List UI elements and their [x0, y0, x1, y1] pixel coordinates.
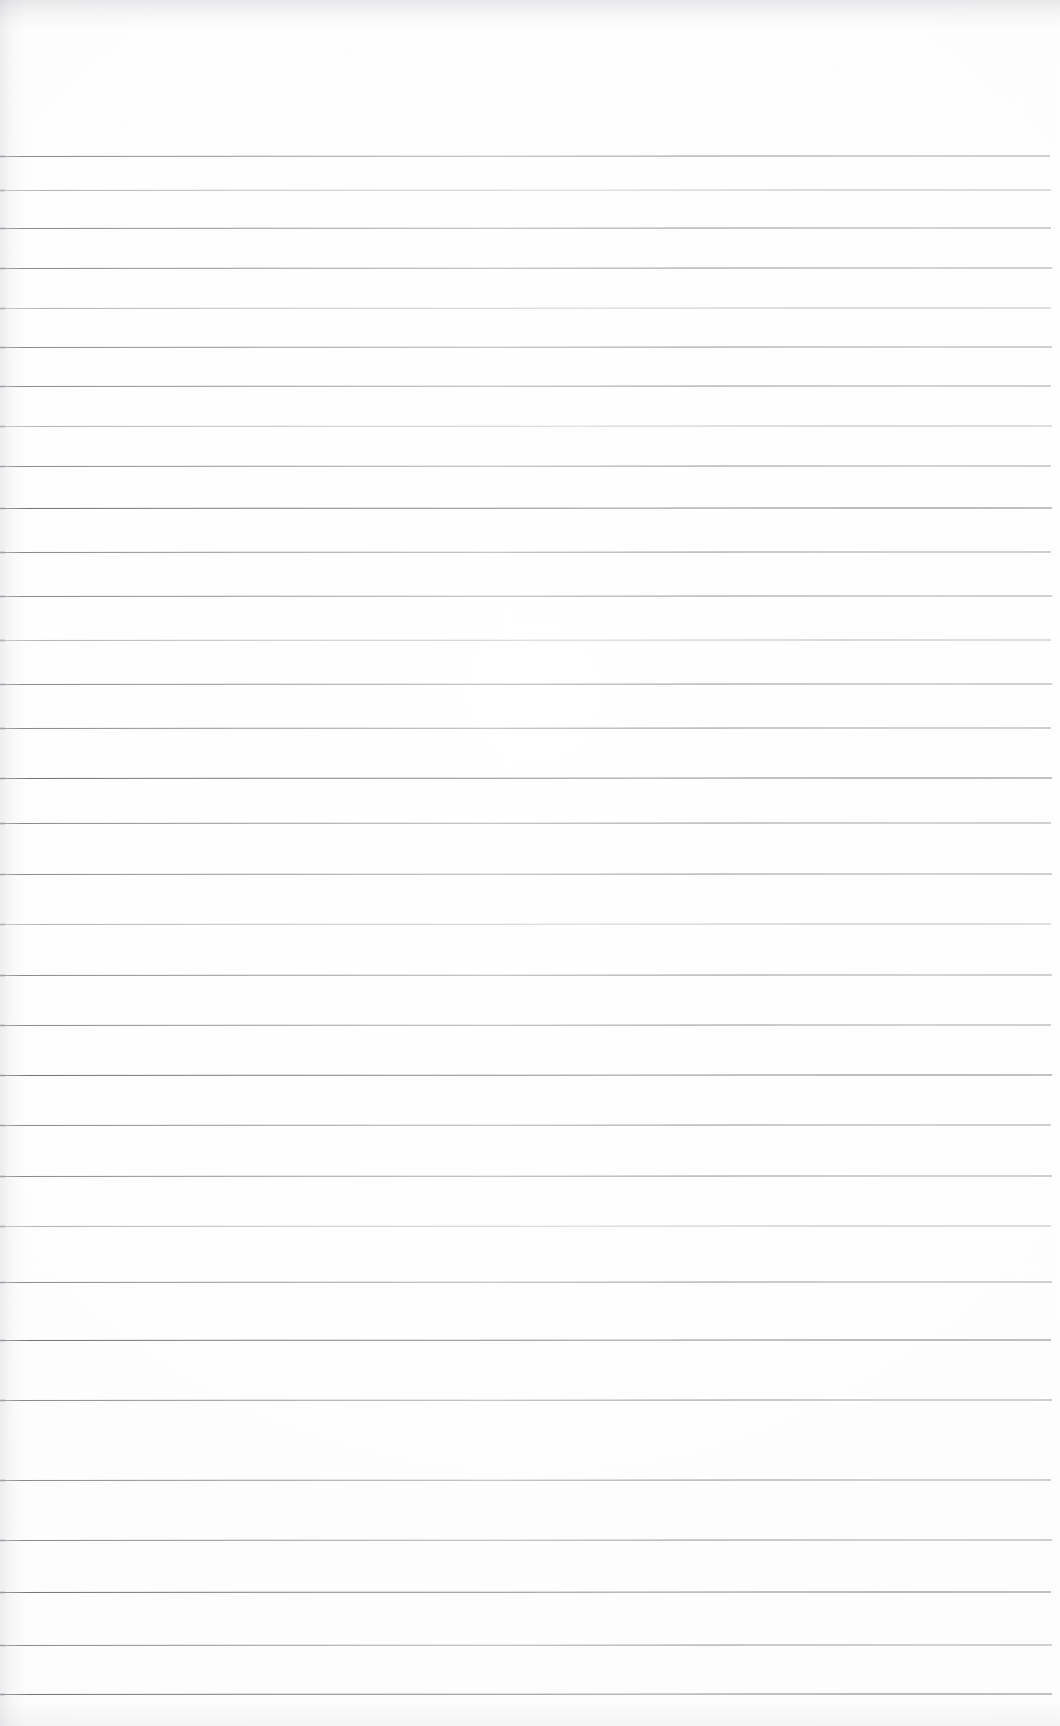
- rule-line: [0, 267, 1052, 269]
- rule-line: [0, 1281, 1052, 1283]
- rule-line: [0, 1124, 1051, 1126]
- rule-line: [0, 425, 1052, 427]
- scanned-page: [0, 0, 1060, 1726]
- rule-line: [0, 1399, 1052, 1401]
- rule-line: [0, 1339, 1051, 1341]
- rule-line: [0, 155, 1050, 157]
- rule-line: [0, 1225, 1051, 1227]
- rule-line: [0, 727, 1051, 729]
- rule-line: [0, 1024, 1051, 1026]
- rule-line: [0, 507, 1052, 509]
- rule-line: [0, 873, 1052, 875]
- rule-line: [0, 639, 1051, 641]
- rule-line: [0, 1591, 1051, 1593]
- rule-line: [0, 1693, 1052, 1695]
- rule-line: [0, 1539, 1052, 1541]
- rule-line: [0, 1074, 1052, 1076]
- rule-line: [0, 683, 1052, 685]
- rule-line: [0, 1479, 1051, 1481]
- rule-line: [0, 974, 1052, 976]
- rule-line: [0, 189, 1051, 191]
- rule-line: [0, 777, 1052, 779]
- rule-line: [0, 595, 1052, 597]
- ruled-lines-group: [0, 0, 1060, 1726]
- rule-line: [0, 385, 1051, 387]
- rule-line: [0, 346, 1052, 348]
- rule-line: [0, 822, 1051, 824]
- rule-line: [0, 551, 1051, 553]
- rule-line: [0, 923, 1051, 925]
- rule-line: [0, 227, 1051, 229]
- rule-line: [0, 307, 1051, 309]
- rule-line: [0, 1644, 1052, 1646]
- rule-line: [0, 1175, 1052, 1177]
- rule-line: [0, 465, 1051, 467]
